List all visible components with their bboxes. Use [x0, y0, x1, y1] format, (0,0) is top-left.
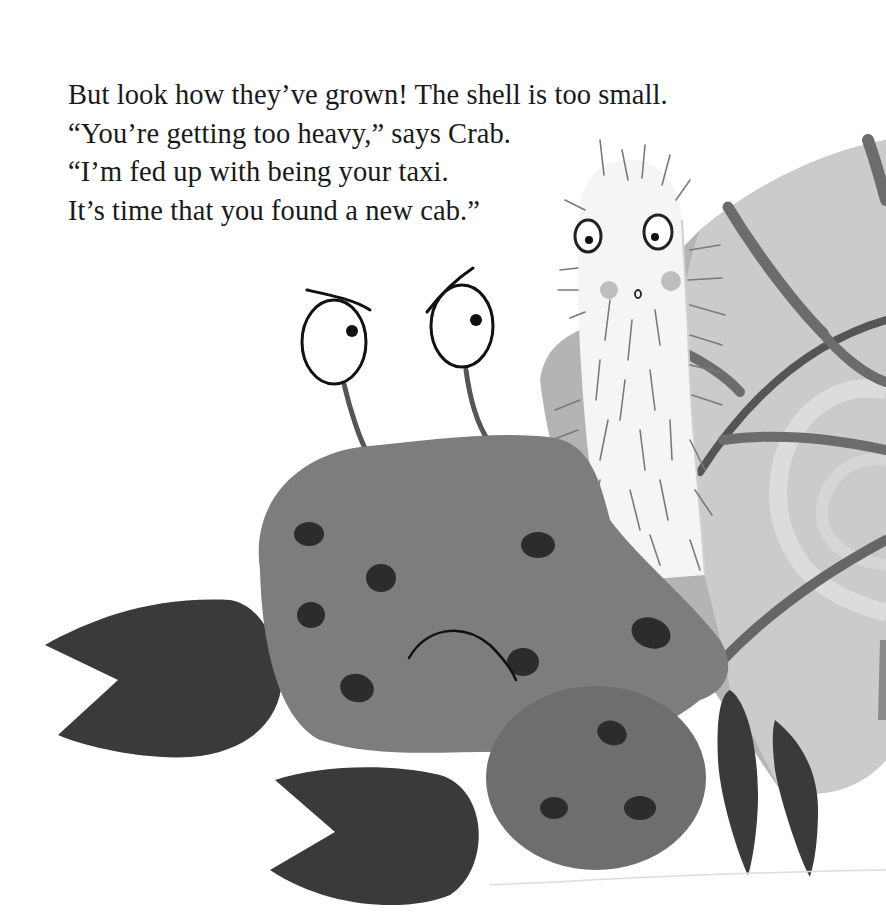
- ground-line: [490, 870, 886, 885]
- crab-claw-lower: [270, 767, 479, 905]
- book-page: But look how they’ve grown! The shell is…: [0, 0, 886, 919]
- crab-claw-upper: [45, 600, 282, 758]
- story-line-2: “You’re getting too heavy,” says Crab.: [68, 115, 668, 154]
- crab-lower-body: [486, 686, 706, 870]
- story-text: But look how they’ve grown! The shell is…: [68, 76, 668, 230]
- story-line-1: But look how they’ve grown! The shell is…: [68, 76, 668, 115]
- story-line-3: “I’m fed up with being your taxi.: [68, 153, 668, 192]
- story-line-4: It’s time that you found a new cab.”: [68, 192, 668, 231]
- crab-eye-left: [302, 300, 366, 384]
- crab-eyes: [302, 268, 493, 452]
